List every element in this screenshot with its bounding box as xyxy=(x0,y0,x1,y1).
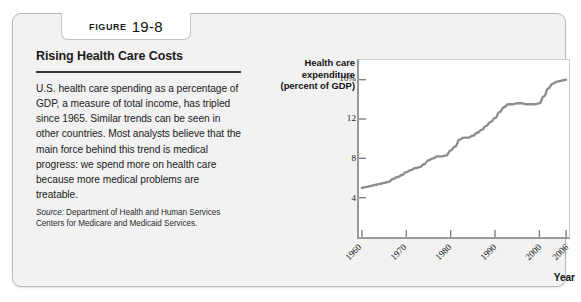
figure-text-column: Rising Health Care Costs U.S. health car… xyxy=(36,50,241,229)
x-tick-label: 1990 xyxy=(478,242,498,262)
y-tick-label: 12 xyxy=(286,113,356,123)
title-divider xyxy=(36,71,241,73)
x-tick-label: 1970 xyxy=(388,242,408,262)
x-tick-label: 2000 xyxy=(523,242,543,262)
y-tick-label: 16% xyxy=(286,73,356,83)
figure-box: FIGURE 19-8 Rising Health Care Costs U.S… xyxy=(12,13,566,287)
figure-body-text: U.S. health care spending as a percentag… xyxy=(36,81,241,203)
chart: Health care expenditure (percent of GDP)… xyxy=(265,54,575,289)
x-tick-marks xyxy=(362,230,566,237)
figure-number-tab: FIGURE 19-8 xyxy=(61,13,191,40)
x-tick-label: 2006 xyxy=(550,242,570,262)
figure-label-word: FIGURE xyxy=(89,22,127,32)
x-tick-label: 1960 xyxy=(343,242,363,262)
figure-title: Rising Health Care Costs xyxy=(36,50,241,64)
figure-number: 19-8 xyxy=(132,18,163,35)
source-text: Department of Health and Human Services … xyxy=(36,208,220,227)
y-tick-label: 8 xyxy=(286,153,356,163)
y-axis-title-line1: Health care xyxy=(265,57,355,69)
y-tick-label: 4 xyxy=(286,193,356,203)
x-tick-label: 1980 xyxy=(433,242,453,262)
y-tick-marks xyxy=(359,80,366,198)
plot-area xyxy=(357,59,570,239)
plot-svg xyxy=(359,60,569,237)
figure-source: Source: Department of Health and Human S… xyxy=(36,208,241,229)
x-axis-title: Year xyxy=(554,272,575,283)
source-label: Source: xyxy=(36,208,64,217)
health-expenditure-line xyxy=(362,80,566,188)
